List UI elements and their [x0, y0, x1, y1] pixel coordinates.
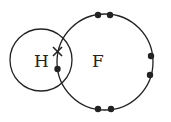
shared-electron-dot-icon — [54, 66, 60, 72]
lone-pair-top — [95, 12, 113, 18]
hydrogen-label: H — [34, 51, 49, 71]
lone-pair-bottom — [95, 106, 114, 112]
fluorine-label: F — [92, 51, 104, 71]
hf-dot-cross-diagram: H F — [0, 0, 171, 122]
